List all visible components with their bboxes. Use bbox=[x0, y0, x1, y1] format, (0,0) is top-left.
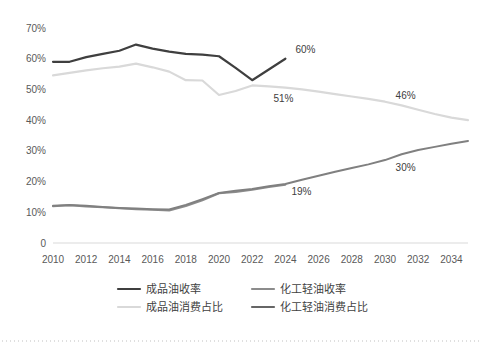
line-chart: 010%20%30%40%50%60%70% 20102012201420162… bbox=[0, 0, 483, 353]
x-tick-2018: 2018 bbox=[175, 254, 198, 265]
legend-label-0: 成品油收率 bbox=[146, 282, 201, 296]
y-tick-10%: 10% bbox=[26, 207, 46, 218]
x-tick-2030: 2030 bbox=[374, 254, 397, 265]
x-tick-2012: 2012 bbox=[75, 254, 98, 265]
legend-label-3: 化工轻油消费占比 bbox=[280, 300, 368, 314]
x-tick-2022: 2022 bbox=[241, 254, 264, 265]
legend-label-1: 化工轻油收率 bbox=[280, 282, 346, 296]
x-tick-2026: 2026 bbox=[307, 254, 330, 265]
x-tick-2028: 2028 bbox=[341, 254, 364, 265]
data-label-60: 60% bbox=[295, 44, 315, 55]
y-tick-40%: 40% bbox=[26, 115, 46, 126]
y-tick-30%: 30% bbox=[26, 145, 46, 156]
legend-label-2: 成品油消费占比 bbox=[146, 300, 223, 314]
data-label-46: 46% bbox=[396, 90, 416, 101]
chart-background bbox=[0, 0, 483, 353]
x-tick-2016: 2016 bbox=[141, 254, 164, 265]
y-tick-60%: 60% bbox=[26, 53, 46, 64]
x-tick-2032: 2032 bbox=[407, 254, 430, 265]
data-label-30: 30% bbox=[396, 162, 416, 173]
data-label-19: 19% bbox=[291, 186, 311, 197]
x-tick-2014: 2014 bbox=[108, 254, 131, 265]
y-tick-50%: 50% bbox=[26, 84, 46, 95]
data-label-51: 51% bbox=[273, 93, 293, 104]
x-tick-2034: 2034 bbox=[440, 254, 463, 265]
y-tick-20%: 20% bbox=[26, 176, 46, 187]
x-tick-2024: 2024 bbox=[274, 254, 297, 265]
x-tick-2020: 2020 bbox=[208, 254, 231, 265]
chart-container: 010%20%30%40%50%60%70% 20102012201420162… bbox=[0, 0, 483, 353]
y-tick-70%: 70% bbox=[26, 23, 46, 34]
y-tick-0: 0 bbox=[40, 238, 46, 249]
x-tick-2010: 2010 bbox=[42, 254, 65, 265]
